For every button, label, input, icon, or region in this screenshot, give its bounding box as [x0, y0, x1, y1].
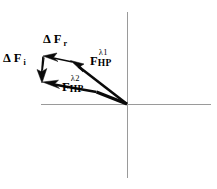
vector-delta-f-r: [43, 53, 73, 62]
diagram-canvas: [0, 0, 217, 189]
label-f-hp-lambda2-symbol: F: [62, 80, 70, 94]
label-f-hp-lambda2-subscript: HP: [70, 85, 84, 95]
label-f-hp-lambda2-affixes: λ2 HP: [70, 79, 87, 91]
label-delta-f-r-subscript: r: [63, 39, 67, 48]
label-delta-f-i-subscript: i: [23, 58, 26, 67]
label-f-hp-lambda1-subscript: HP: [98, 59, 112, 69]
label-delta-f-r-symbol: Δ F: [43, 32, 63, 46]
label-f-hp-lambda1-superscript: λ1: [99, 48, 108, 57]
label-f-hp-lambda1: F λ1 HP: [90, 53, 115, 68]
vector-f-hp-lambda1-arrowhead: [71, 61, 85, 73]
label-f-hp-lambda1-symbol: F: [90, 54, 98, 68]
label-f-hp-lambda2-superscript: λ2: [71, 74, 80, 83]
label-f-hp-lambda2: F λ2 HP: [62, 79, 87, 94]
label-delta-f-r: Δ Fr: [43, 33, 67, 48]
vector-delta-f-r-arrowhead: [43, 53, 58, 62]
label-delta-f-i-symbol: Δ F: [3, 51, 23, 65]
label-f-hp-lambda1-affixes: λ1 HP: [98, 53, 115, 65]
vector-delta-f-i: [37, 57, 47, 84]
force-vector-diagram: Δ Fr Δ Fi F λ2 HP F λ1 HP: [0, 0, 217, 189]
label-delta-f-i: Δ Fi: [3, 52, 26, 67]
